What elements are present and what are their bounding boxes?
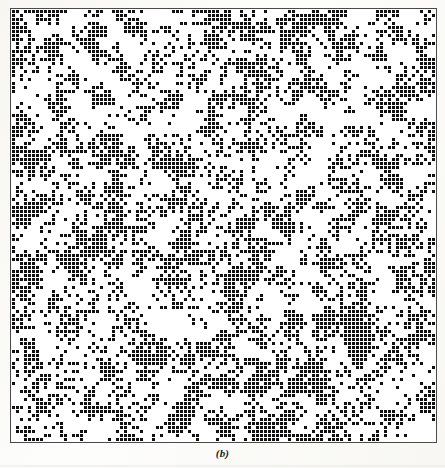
figure-caption: (b) xyxy=(0,447,445,459)
lattice-plot-frame xyxy=(10,8,437,443)
figure-root: (b) xyxy=(0,0,445,468)
percolation-lattice-canvas xyxy=(11,9,436,442)
